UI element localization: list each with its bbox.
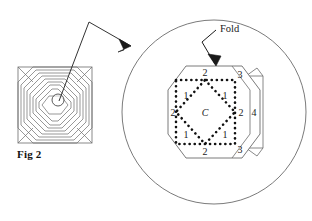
label-top-2: 2 [203, 67, 208, 78]
label-inner-top-right-1: 1 [223, 90, 228, 101]
small-pattern-figure [18, 67, 92, 143]
magnified-fold-pattern: 2 2 2 2 3 3 4 1 1 1 1 C [168, 66, 263, 158]
flap-top-bevel [257, 68, 263, 76]
figure-caption: Fig 2 [17, 148, 42, 160]
label-bottom-right-3: 3 [238, 144, 243, 155]
label-inner-bottom-left-1: 1 [184, 129, 189, 140]
label-top-right-3: 3 [238, 69, 243, 80]
leader-arrowhead [118, 39, 131, 52]
label-flap-4: 4 [252, 107, 257, 118]
label-center-c: C [202, 107, 209, 118]
figure-2-diagram: 2 2 2 2 3 3 4 1 1 1 1 C Fold Fig 2 [0, 0, 312, 221]
fold-label-text: Fold [220, 23, 240, 34]
label-inner-bottom-right-1: 1 [223, 129, 228, 140]
fold-arrowhead [208, 54, 221, 66]
fold-callout: Fold [202, 23, 240, 66]
figure-canvas: 2 2 2 2 3 3 4 1 1 1 1 C Fold [0, 0, 312, 221]
magnifier-leader-line [59, 22, 131, 101]
detail-highlight-circle [52, 94, 64, 106]
label-bottom-2: 2 [203, 146, 208, 157]
label-left-2: 2 [171, 107, 176, 118]
label-inner-top-left-1: 1 [184, 90, 189, 101]
flap-bottom-bevel [257, 148, 263, 156]
label-right-2: 2 [239, 107, 244, 118]
